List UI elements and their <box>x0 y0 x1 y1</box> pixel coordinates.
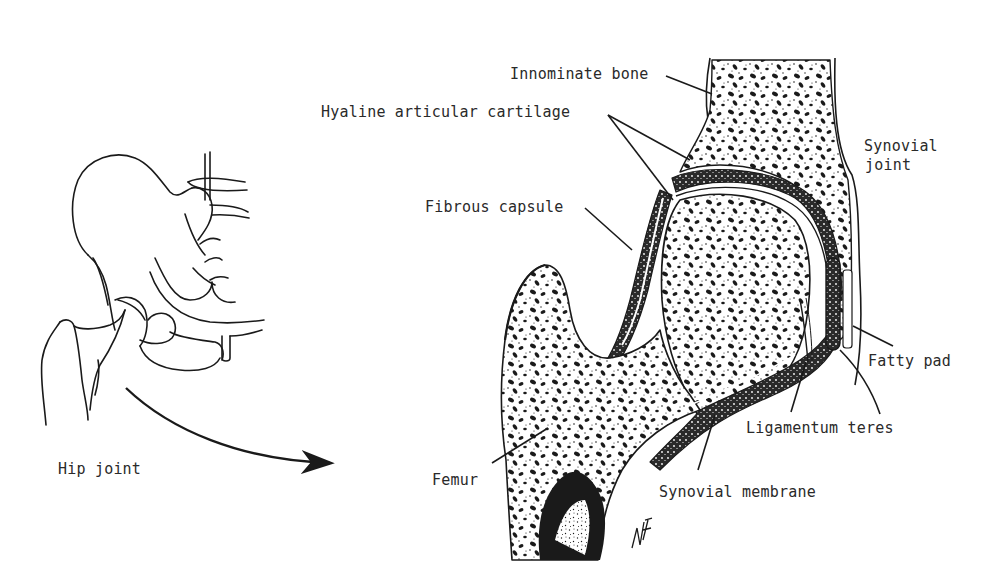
label-ligamentum-teres: Ligamentum teres <box>746 420 894 437</box>
label-fibrous-capsule: Fibrous capsule <box>425 199 563 216</box>
leader-fatty <box>853 326 893 346</box>
pelvis-overview-illustration <box>41 152 264 425</box>
label-fatty-pad: Fatty pad <box>868 353 951 370</box>
leader-cartilage-b <box>608 115 673 200</box>
diagram-artwork <box>0 0 989 570</box>
leader-innominate <box>666 76 712 94</box>
label-synovial-joint-line2: joint <box>865 157 911 174</box>
leader-fibrous <box>585 208 632 250</box>
hip-joint-diagram: Hip joint Innominate bone Hyaline articu… <box>0 0 989 570</box>
artist-signature <box>632 518 652 548</box>
label-synovial-membrane: Synovial membrane <box>659 484 816 501</box>
leader-cartilage-a <box>608 115 690 160</box>
pointer-arrow <box>126 388 330 463</box>
label-hip-joint: Hip joint <box>58 461 141 478</box>
label-innominate-bone: Innominate bone <box>510 66 648 83</box>
label-synovial-joint-line1: Synovial <box>864 138 938 155</box>
label-hyaline-articular-cartilage: Hyaline articular cartilage <box>321 104 570 121</box>
label-femur: Femur <box>432 472 478 489</box>
